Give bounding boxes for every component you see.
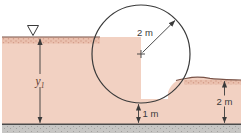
radius-label: 2 m <box>137 27 153 38</box>
hydrostatics-cylinder-diagram: 2 m y1 1 m 2 m <box>0 0 243 139</box>
ground <box>2 124 241 133</box>
right-depth-label: 2 m <box>217 96 233 107</box>
water-surface-stipple-left <box>2 38 100 44</box>
gap-label: 1 m <box>143 108 159 119</box>
water-surface-stipple-right <box>184 80 241 85</box>
water-surface-icon <box>28 26 39 36</box>
water-body-left <box>2 37 141 124</box>
